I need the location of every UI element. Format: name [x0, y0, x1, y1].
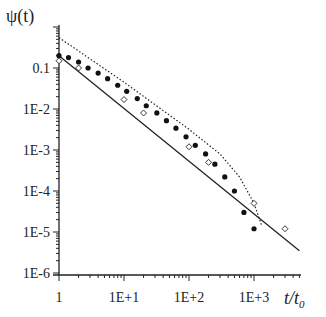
filled-circle-marker — [124, 89, 129, 94]
filled-circle-marker — [164, 118, 169, 123]
filled-circle-marker — [173, 126, 178, 131]
x-axis-title-sub: 0 — [299, 298, 305, 310]
filled-circle-marker — [144, 103, 149, 108]
filled-circle-marker — [222, 174, 227, 179]
open-diamond-marker — [56, 58, 62, 64]
filled-circle-marker — [66, 55, 71, 60]
x-tick-label: 1 — [56, 290, 63, 305]
filled-circle-marker — [85, 65, 90, 70]
dotted-fit-line — [59, 38, 261, 225]
y-tick-label: 1E-4 — [23, 184, 50, 199]
filled-circle-marker — [203, 151, 208, 156]
x-tick-label: 1E+2 — [174, 290, 204, 305]
filled-circle-marker — [183, 134, 188, 139]
filled-circle-marker — [251, 226, 256, 231]
filled-circle-marker — [135, 96, 140, 101]
y-tick-label: 1E-6 — [23, 266, 50, 281]
filled-circle-marker — [212, 162, 217, 167]
filled-circle-marker — [193, 143, 198, 148]
filled-circle-marker — [105, 76, 110, 81]
axis-labels: ψ(t) t/t0 — [6, 6, 305, 310]
chart: 0.11E-21E-31E-41E-51E-611E+11E+21E+3 ψ(t… — [0, 0, 326, 317]
x-tick-label: 1E+1 — [109, 290, 139, 305]
open-diamond-marker — [121, 97, 127, 103]
open-diamond-marker — [282, 226, 288, 232]
x-axis-title: t/t0 — [284, 288, 305, 310]
y-tick-label: 1E-2 — [23, 102, 50, 117]
axes: 0.11E-21E-31E-41E-51E-611E+11E+21E+3 — [23, 25, 301, 305]
x-tick-label: 1E+3 — [239, 290, 269, 305]
filled-circle-marker — [96, 71, 101, 76]
filled-circle-marker — [154, 110, 159, 115]
y-tick-label: 1E-3 — [23, 143, 50, 158]
y-tick-label: 1E-5 — [23, 225, 50, 240]
x-axis-title-main: t/t — [284, 288, 300, 308]
solid-fit-line — [59, 56, 299, 251]
open-diamond-marker — [251, 200, 257, 206]
filled-circle-marker — [115, 83, 120, 88]
y-tick-label: 0.1 — [33, 61, 51, 76]
open-diamond-marker — [186, 144, 192, 150]
filled-circle-marker — [232, 188, 237, 193]
filled-circle-marker — [241, 210, 246, 215]
y-axis-title: ψ(t) — [6, 6, 34, 27]
plot-area — [56, 38, 299, 251]
filled-circle-marker — [76, 59, 81, 64]
open-diamond-marker — [141, 110, 147, 116]
open-diamond-marker — [206, 159, 212, 165]
